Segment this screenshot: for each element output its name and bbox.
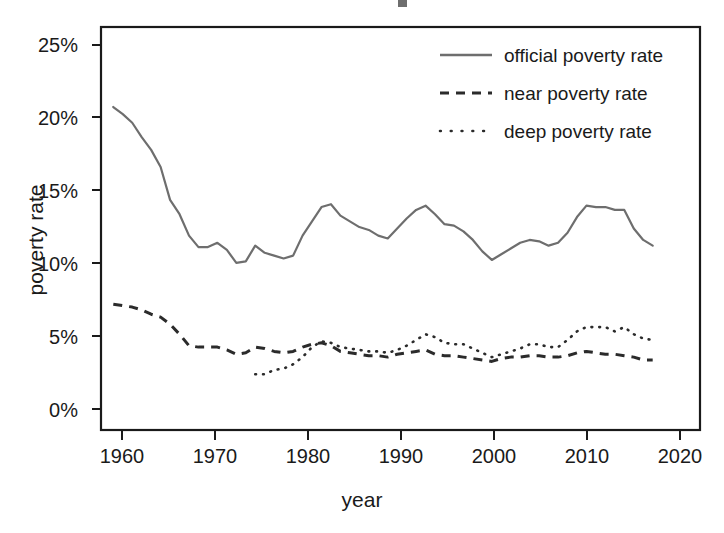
x-axis-title: year — [0, 488, 724, 512]
y-tick-label-15: 15% — [8, 180, 78, 203]
poverty-rate-chart: poverty rate year 25% 20% 15% 10% 5% 0% … — [0, 0, 724, 533]
legend-label-official: official poverty rate — [504, 45, 663, 67]
y-tick-label-25: 25% — [8, 34, 78, 57]
x-tick-label-1960: 1960 — [82, 445, 162, 468]
x-tick-label-1970: 1970 — [175, 445, 255, 468]
y-tick-label-0: 0% — [8, 399, 78, 422]
x-tick-label-2020: 2020 — [640, 445, 720, 468]
cropped-title-fragment — [398, 0, 407, 7]
y-tick-label-5: 5% — [8, 326, 78, 349]
legend-label-near: near poverty rate — [504, 83, 648, 105]
y-tick-label-10: 10% — [8, 253, 78, 276]
y-tick-label-20: 20% — [8, 107, 78, 130]
series-line-deep-poverty-rate — [255, 327, 652, 374]
y-axis-ticks — [92, 45, 101, 409]
x-tick-label-1980: 1980 — [268, 445, 348, 468]
x-axis-ticks — [122, 430, 680, 440]
x-tick-label-2000: 2000 — [454, 445, 534, 468]
legend-label-deep: deep poverty rate — [504, 121, 652, 143]
x-tick-label-1990: 1990 — [361, 445, 441, 468]
x-tick-label-2010: 2010 — [547, 445, 627, 468]
